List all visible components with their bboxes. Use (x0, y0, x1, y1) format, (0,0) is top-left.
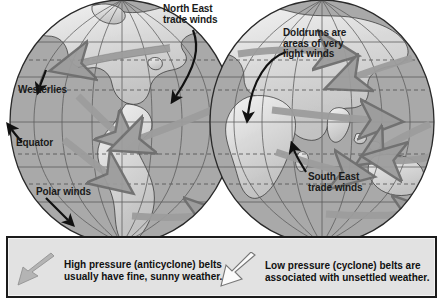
wind-arrow-polar-s-w (132, 216, 200, 218)
label-equator: Equator (16, 138, 53, 149)
label-westerlies: Westerlies (18, 85, 67, 96)
outline-arrow-icon (213, 252, 259, 292)
globe-western (10, 0, 234, 244)
label-doldrums: Doldrums are areas of very light winds (283, 28, 346, 60)
legend-text-low-pressure: Low pressure (cyclone) belts are associa… (265, 260, 430, 284)
legend-text-high-pressure: High pressure (anticyclone) belts usuall… (64, 259, 222, 283)
label-north-east-trade-winds: North East trade winds (163, 4, 217, 25)
label-polar-winds: Polar winds (36, 187, 91, 198)
figure-root: North East trade winds Doldrums are area… (0, 0, 445, 306)
legend-item-high-pressure: High pressure (anticyclone) belts usuall… (12, 252, 222, 290)
filled-arrow-icon (12, 252, 58, 290)
legend-box: High pressure (anticyclone) belts usuall… (6, 236, 437, 298)
legend-item-low-pressure: Low pressure (cyclone) belts are associa… (213, 252, 430, 292)
label-south-east-trade-winds: South East trade winds (308, 172, 362, 193)
